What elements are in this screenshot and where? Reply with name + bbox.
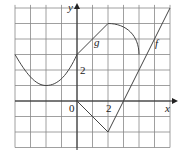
- g-label: g: [94, 36, 100, 48]
- grid: [15, 5, 170, 148]
- origin-label: 0: [69, 102, 75, 114]
- y-axis-arrow-icon: [74, 3, 80, 9]
- y-axis-label: y: [67, 1, 73, 13]
- x-tick-label: 2: [106, 102, 112, 114]
- x-axis-label: x: [164, 102, 170, 114]
- x-axis-arrow-icon: [172, 98, 178, 104]
- y-tick-label: 2: [80, 64, 86, 76]
- axes: [15, 3, 178, 150]
- graph: y x 0 2 2 g f: [0, 0, 182, 157]
